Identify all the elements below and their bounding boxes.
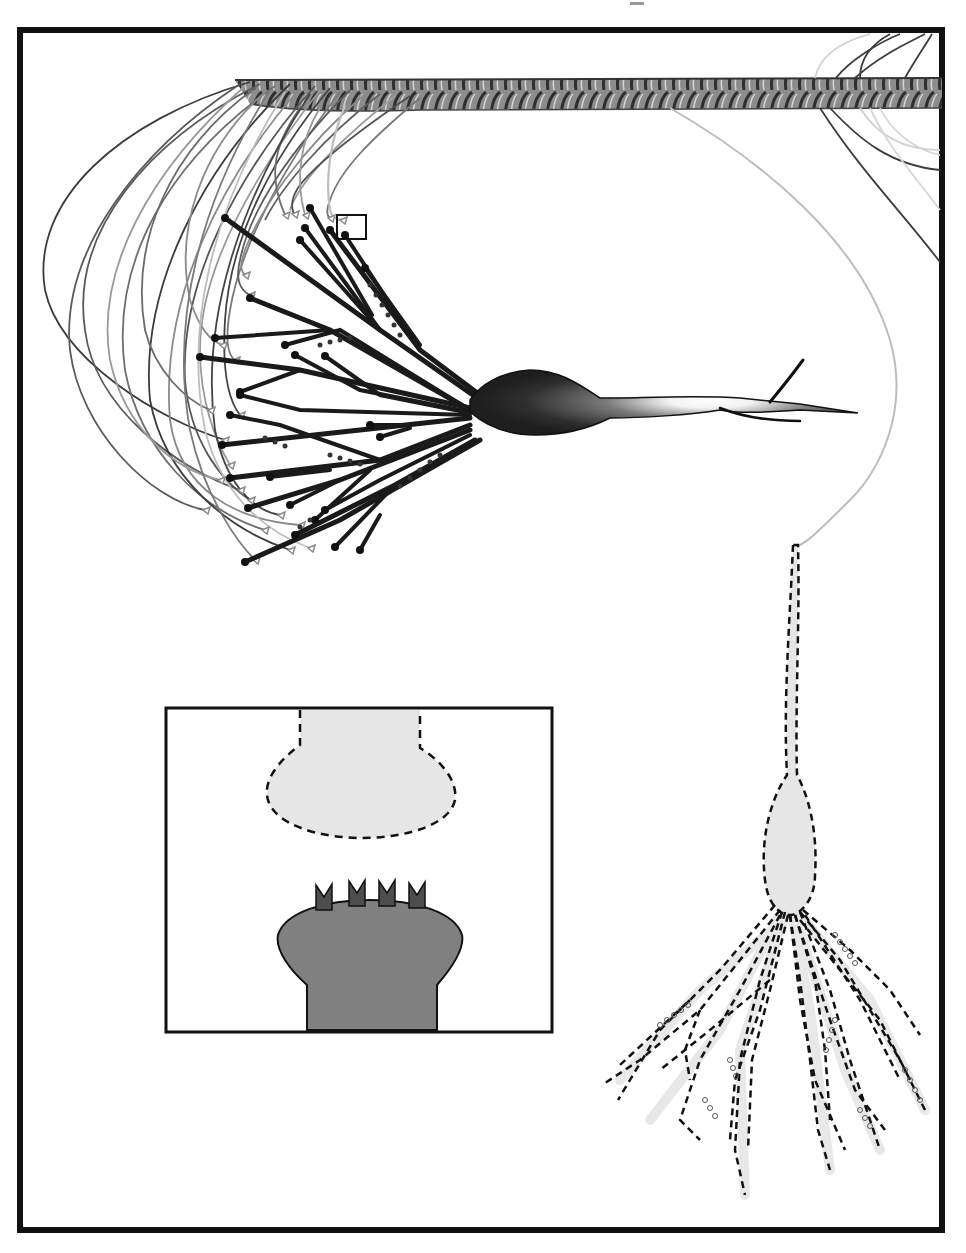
top-mark: [630, 2, 644, 5]
synapse-inset: [166, 708, 552, 1032]
diagram-canvas: [0, 0, 966, 1253]
axon-fiber-bundle: [235, 78, 942, 111]
neuron-diagram-figure: [0, 0, 966, 1253]
